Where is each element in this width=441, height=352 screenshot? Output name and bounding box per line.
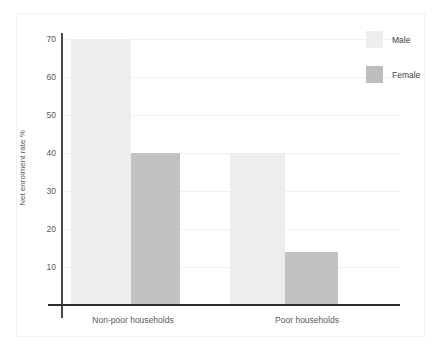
y-tick-20: 20 (47, 224, 56, 234)
x-axis-line (48, 304, 400, 306)
bar-non-poor-female (131, 153, 180, 305)
legend: Male Female (366, 31, 436, 101)
legend-swatch-female-icon (366, 66, 383, 83)
plot-area (62, 39, 400, 305)
legend-label-male: Male (392, 35, 410, 45)
legend-item-male: Male (366, 31, 436, 48)
y-tick-40: 40 (47, 148, 56, 158)
y-tick-60: 60 (47, 72, 56, 82)
legend-item-female: Female (366, 66, 436, 83)
legend-label-female: Female (392, 70, 420, 80)
y-tick-70: 70 (47, 34, 56, 44)
x-category-label-poor: Poor households (275, 315, 339, 325)
y-tick-50: 50 (47, 110, 56, 120)
bar-poor-female (285, 252, 338, 305)
y-tick-10: 10 (47, 262, 56, 272)
bar-chart-figure: 70 60 50 40 30 20 10 Net enrolment rate … (0, 0, 441, 352)
x-category-label-non-poor: Non-poor households (92, 315, 173, 325)
legend-swatch-male-icon (366, 31, 383, 48)
y-axis-ticks: 70 60 50 40 30 20 10 (32, 39, 56, 305)
y-tick-30: 30 (47, 186, 56, 196)
bar-poor-male (230, 153, 285, 305)
bar-non-poor-male (71, 39, 131, 305)
y-axis-line (61, 33, 63, 318)
y-axis-title: Net enrolment rate % (18, 130, 27, 206)
